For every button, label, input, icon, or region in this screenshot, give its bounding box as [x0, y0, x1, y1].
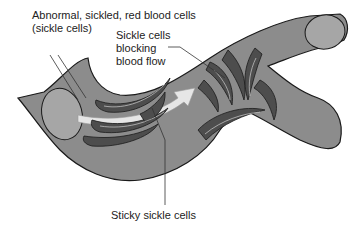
label-sticky-sickle-cells: Sticky sickle cells — [111, 209, 196, 222]
label-abnormal-sickle-cells: Abnormal, sickled, red blood cells (sick… — [32, 9, 196, 35]
label-sickle-cells-blocking: Sickle cells blocking blood flow — [116, 29, 170, 68]
